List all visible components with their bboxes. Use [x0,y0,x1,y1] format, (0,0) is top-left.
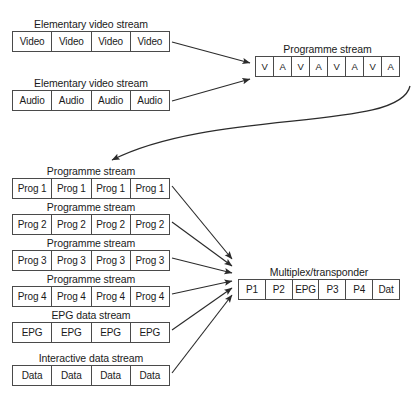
stream-label: Elementary video stream [12,18,170,31]
stream-cell: EPG [293,280,320,299]
stream-row: P1 P2 EPG P3 P4 Dat [238,279,400,300]
stream-cell: Video [52,32,91,51]
stream-cell: Prog 1 [52,179,91,198]
stream-row: Prog 1 Prog 1 Prog 1 Prog 1 [12,178,170,199]
stream-epg-data: EPG data stream EPG EPG EPG EPG [12,309,170,343]
stream-cell: Video [92,32,131,51]
stream-multiplex-transponder: Multiplex/transponder P1 P2 EPG P3 P4 Da… [238,266,400,300]
stream-cell: Video [131,32,169,51]
stream-cell: P1 [239,280,266,299]
stream-label: Multiplex/transponder [238,266,400,279]
stream-elementary-audio: Elementary video stream Audio Audio Audi… [12,77,170,111]
stream-cell: P3 [319,280,346,299]
stream-cell: Prog 3 [13,251,52,270]
stream-cell: EPG [52,323,91,342]
stream-row: EPG EPG EPG EPG [12,322,170,343]
stream-programme-1: Programme stream Prog 1 Prog 1 Prog 1 Pr… [12,165,170,199]
arrow-video-to-programme [172,42,250,63]
stream-label: Programme stream [12,237,170,250]
stream-cell: Prog 2 [13,215,52,234]
stream-cell: A [346,57,364,76]
stream-row: Audio Audio Audio Audio [12,90,170,111]
stream-cell: Prog 3 [131,251,169,270]
stream-programme-2: Programme stream Prog 2 Prog 2 Prog 2 Pr… [12,201,170,235]
stream-cell: Data [92,366,131,385]
stream-cell: Prog 4 [52,287,91,306]
stream-programme-va: Programme stream V A V A V A V A [255,43,400,77]
stream-cell: V [328,57,346,76]
stream-cell: Prog 3 [52,251,91,270]
stream-cell: V [292,57,310,76]
stream-cell: Prog 1 [131,179,169,198]
stream-cell: Dat [373,280,399,299]
stream-cell: Prog 2 [131,215,169,234]
stream-cell: P2 [266,280,293,299]
stream-label: EPG data stream [12,309,170,322]
stream-label: Elementary video stream [12,77,170,90]
stream-row: V A V A V A V A [255,56,400,77]
stream-cell: V [256,57,274,76]
arrow-data-to-mux [172,295,232,373]
stream-cell: Data [52,366,91,385]
stream-cell: Prog 3 [92,251,131,270]
arrow-prog2-to-mux [172,222,232,266]
stream-row: Data Data Data Data [12,365,170,386]
stream-row: Prog 2 Prog 2 Prog 2 Prog 2 [12,214,170,235]
stream-cell: Prog 1 [13,179,52,198]
stream-cell: P4 [346,280,373,299]
stream-cell: Audio [52,91,91,110]
stream-label: Programme stream [255,43,400,56]
stream-cell: Prog 4 [131,287,169,306]
stream-cell: Prog 2 [52,215,91,234]
arrow-prog4-to-mux [172,281,232,294]
stream-cell: A [274,57,292,76]
arrow-prog1-to-mux [172,186,232,259]
stream-cell: A [382,57,399,76]
arrow-audio-to-programme [172,79,250,101]
stream-cell: Prog 1 [92,179,131,198]
arrow-epg-to-mux [172,288,232,330]
stream-label: Programme stream [12,165,170,178]
stream-label: Interactive data stream [12,352,170,365]
stream-interactive-data: Interactive data stream Data Data Data D… [12,352,170,386]
diagram-canvas: Elementary video stream Video Video Vide… [0,0,418,405]
stream-row: Video Video Video Video [12,31,170,52]
stream-cell: Data [13,366,52,385]
stream-cell: Audio [92,91,131,110]
stream-row: Prog 4 Prog 4 Prog 4 Prog 4 [12,286,170,307]
stream-cell: EPG [92,323,131,342]
stream-cell: Video [13,32,52,51]
stream-cell: Data [131,366,169,385]
stream-label: Programme stream [12,201,170,214]
stream-cell: Prog 4 [92,287,131,306]
stream-cell: A [310,57,328,76]
stream-cell: Prog 2 [92,215,131,234]
stream-cell: Audio [13,91,52,110]
stream-cell: EPG [131,323,169,342]
stream-row: Prog 3 Prog 3 Prog 3 Prog 3 [12,250,170,271]
stream-programme-4: Programme stream Prog 4 Prog 4 Prog 4 Pr… [12,273,170,307]
stream-cell: Prog 4 [13,287,52,306]
stream-cell: V [364,57,382,76]
stream-cell: EPG [13,323,52,342]
stream-cell: Audio [131,91,169,110]
stream-programme-3: Programme stream Prog 3 Prog 3 Prog 3 Pr… [12,237,170,271]
stream-elementary-video: Elementary video stream Video Video Vide… [12,18,170,52]
stream-label: Programme stream [12,273,170,286]
arrow-prog3-to-mux [172,258,232,273]
